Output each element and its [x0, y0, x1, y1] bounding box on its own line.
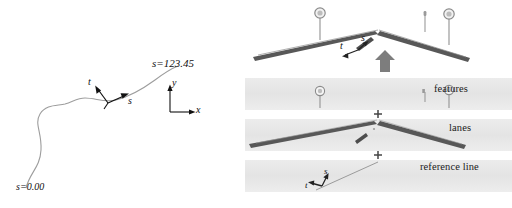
figure-root: s=0.00 s=123.45 s t x y [0, 0, 512, 208]
operator-plus-2 [374, 151, 382, 159]
band-label-lanes: lanes [449, 122, 471, 133]
band-features [245, 78, 512, 110]
reference-label-normal-t: t [305, 180, 308, 190]
band-label-features: features [434, 83, 468, 94]
aggregate-arrow [375, 50, 395, 72]
operator-plus-1 [374, 110, 382, 118]
reference-label-tangent-s: s [324, 166, 328, 176]
band-lanes [245, 119, 512, 151]
band-label-reference-line: reference line [420, 161, 479, 172]
right-panel-graphics [0, 0, 512, 208]
scene-frame-arrows [342, 41, 369, 59]
scene-label-tangent-s: s [361, 32, 365, 43]
scene-label-normal-t: t [340, 40, 343, 51]
